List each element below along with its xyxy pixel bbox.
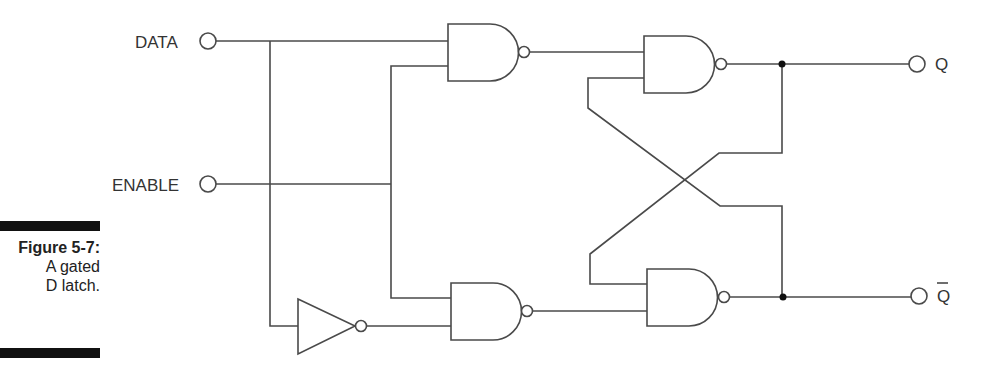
- data-label: DATA: [135, 33, 178, 52]
- figure-caption: Figure 5-7: A gated D latch.: [0, 238, 100, 295]
- q-bar-feedback-wire: [588, 78, 782, 297]
- q-junction-dot: [779, 61, 786, 68]
- inverter: [298, 299, 367, 354]
- nand-gate-3: [644, 36, 727, 93]
- nand-gate-1: [448, 24, 530, 81]
- figure-number: Figure 5-7:: [0, 238, 100, 257]
- q-bar-label: Q: [937, 287, 950, 306]
- nand-gate-4: [647, 269, 730, 326]
- caption-line-1: A gated: [0, 257, 100, 276]
- caption-bottom-bar: [0, 348, 100, 358]
- q-label: Q: [935, 55, 948, 74]
- q-bar-junction-dot: [780, 294, 787, 301]
- nand-gate-2: [451, 283, 533, 340]
- enable-split-wire: [391, 66, 451, 298]
- caption-line-2: D latch.: [0, 276, 100, 295]
- caption-top-bar: [0, 221, 100, 231]
- q-bar-output-terminal: [911, 288, 927, 304]
- data-input-terminal: [200, 33, 216, 49]
- q-feedback-wire: [590, 64, 782, 284]
- enable-input-terminal: [200, 176, 216, 192]
- enable-label: ENABLE: [112, 176, 179, 195]
- q-output-terminal: [909, 56, 925, 72]
- gated-d-latch-diagram: DATA ENABLE Q Q: [0, 0, 1008, 368]
